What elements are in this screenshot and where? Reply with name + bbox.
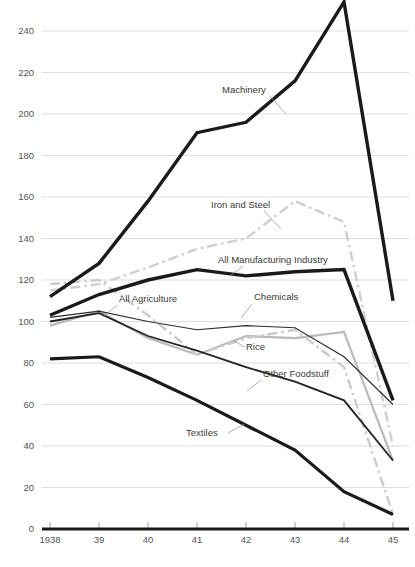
y-axis-tick-label: 40	[23, 440, 34, 451]
leader-line-machinery	[270, 96, 286, 114]
leader-line-textiles	[228, 424, 244, 433]
x-axis-tick-label: 41	[192, 534, 203, 545]
x-axis-tick-label: 42	[241, 534, 252, 545]
series-label-all-agriculture: All Agriculture	[119, 293, 177, 304]
series-label-iron-and-steel: Iron and Steel	[211, 199, 270, 210]
x-axis-tick-label: 43	[290, 534, 301, 545]
x-axis-labels-group: 193839404142434445	[39, 534, 398, 545]
series-line-textiles	[50, 357, 393, 515]
y-axis-tick-label: 60	[23, 399, 34, 410]
series-line-rice	[50, 311, 393, 460]
y-axis-tick-label: 20	[23, 482, 34, 493]
series-label-other-foodstuff: Other Foodstuff	[263, 368, 329, 379]
x-axis-ticks-group	[50, 522, 393, 528]
x-axis-tick-label: 1938	[39, 534, 60, 545]
y-axis-tick-label: 220	[18, 67, 34, 78]
y-axis-tick-label: 180	[18, 150, 34, 161]
y-axis-labels-group: 020406080100120140160180200220240	[18, 25, 34, 534]
series-line-iron-and-steel	[50, 201, 393, 446]
y-axis-tick-label: 0	[29, 523, 34, 534]
series-label-textiles: Textiles	[186, 427, 218, 438]
y-axis-tick-label: 100	[18, 316, 34, 327]
leader-line-chemicals	[241, 304, 252, 318]
x-axis-tick-label: 44	[339, 534, 350, 545]
series-label-rice: Rice	[246, 341, 265, 352]
y-axis-tick-label: 120	[18, 274, 34, 285]
series-label-all-manufacturing-industry: All Manufacturing Industry	[218, 254, 328, 265]
series-labels-group: MachineryIron and SteelAll Manufacturing…	[119, 84, 329, 438]
leader-line-other-foodstuff	[247, 380, 261, 391]
y-axis-tick-label: 240	[18, 25, 34, 36]
series-label-chemicals: Chemicals	[254, 291, 299, 302]
x-axis-tick-label: 40	[143, 534, 154, 545]
leader-line-iron-and-steel	[264, 211, 281, 229]
series-line-other-foodstuff	[50, 313, 393, 460]
y-axis-tick-label: 160	[18, 191, 34, 202]
x-axis-tick-label: 39	[94, 534, 105, 545]
series-label-machinery: Machinery	[222, 84, 266, 95]
line-chart: 020406080100120140160180200220240 193839…	[0, 0, 415, 567]
series-line-all-manufacturing-industry	[50, 270, 393, 401]
y-axis-tick-label: 200	[18, 108, 34, 119]
chart-container: 020406080100120140160180200220240 193839…	[0, 0, 415, 567]
leader-line-all-agriculture	[103, 305, 117, 317]
x-axis-tick-label: 45	[388, 534, 399, 545]
y-axis-tick-label: 140	[18, 233, 34, 244]
y-axis-tick-label: 80	[23, 357, 34, 368]
leader-line-rice	[233, 340, 244, 347]
